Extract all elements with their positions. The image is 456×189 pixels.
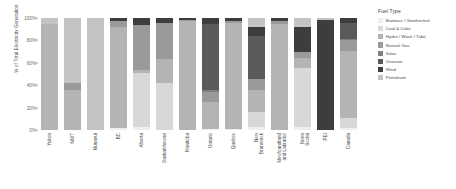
bar-segment[interactable] — [294, 68, 311, 126]
legend-item[interactable]: Wind — [378, 67, 456, 73]
stacked-bar[interactable] — [41, 18, 58, 130]
stacked-bar[interactable] — [87, 18, 104, 130]
bar-segment[interactable] — [248, 112, 265, 127]
x-axis-label: Quebec — [231, 133, 236, 149]
bar-segment[interactable] — [64, 90, 81, 130]
legend-item[interactable]: Hydro / Wave / Tidal — [378, 34, 456, 40]
y-tick-label: 60% — [27, 60, 36, 65]
bar-segment[interactable] — [340, 40, 357, 50]
bar-segment[interactable] — [41, 24, 58, 130]
legend-item[interactable]: Natural Gas — [378, 42, 456, 48]
x-axis-label: Canada — [346, 133, 351, 149]
stacked-bar[interactable] — [271, 18, 288, 130]
bar-column[interactable] — [179, 18, 196, 130]
bar-segment[interactable] — [340, 51, 357, 118]
bar-column[interactable] — [248, 18, 265, 130]
stacked-bar[interactable] — [64, 18, 81, 130]
bar-segment[interactable] — [64, 18, 81, 83]
stacked-bar[interactable] — [248, 18, 265, 130]
bar-segment[interactable] — [133, 73, 150, 127]
bar-segment[interactable] — [340, 23, 357, 40]
legend-item[interactable]: Biomass / Geothermal — [378, 18, 456, 24]
legend-swatch — [378, 59, 383, 64]
bar-column[interactable] — [64, 18, 81, 130]
legend-items: Biomass / GeothermalCoal & CokeHydro / W… — [378, 18, 456, 81]
bar-segment[interactable] — [317, 20, 334, 130]
bar-segment[interactable] — [248, 18, 265, 27]
legend-item[interactable]: Uranium — [378, 58, 456, 64]
bar-segment[interactable] — [248, 36, 265, 79]
stacked-bar[interactable] — [179, 18, 196, 130]
bar-segment[interactable] — [64, 83, 81, 90]
legend-label: Solar — [386, 51, 396, 56]
stacked-bar[interactable] — [317, 18, 334, 130]
stacked-bar[interactable] — [156, 18, 173, 130]
x-axis-label: Newfoundland and Labrador — [277, 133, 287, 162]
y-tick-label: 0% — [29, 128, 36, 133]
bar-segment[interactable] — [248, 79, 265, 90]
bar-segment[interactable] — [248, 127, 265, 130]
bar-segment[interactable] — [202, 102, 219, 129]
bar-segment[interactable] — [294, 27, 311, 52]
stacked-bar[interactable] — [110, 18, 127, 130]
bar-column[interactable] — [340, 18, 357, 130]
bar-segment[interactable] — [294, 58, 311, 68]
bar-segment[interactable] — [179, 21, 196, 130]
bar-segment[interactable] — [271, 24, 288, 130]
bar-segment[interactable] — [248, 27, 265, 36]
stacked-bar[interactable] — [294, 18, 311, 130]
stacked-bar[interactable] — [340, 18, 357, 130]
bar-segment[interactable] — [156, 83, 173, 130]
bar-column[interactable] — [225, 18, 242, 130]
bar-segment[interactable] — [133, 25, 150, 70]
bar-segment[interactable] — [340, 128, 357, 130]
bar-segment[interactable] — [340, 118, 357, 128]
legend-item[interactable]: Petroleum — [378, 75, 456, 81]
bar-segment[interactable] — [294, 127, 311, 130]
bar-segment[interactable] — [156, 23, 173, 60]
bar-column[interactable] — [87, 18, 104, 130]
bar-column[interactable] — [41, 18, 58, 130]
legend-label: Wind — [386, 67, 396, 72]
legend-label: Biomass / Geothermal — [386, 18, 430, 23]
legend-swatch — [378, 34, 383, 39]
x-axis-label: BC — [116, 133, 121, 139]
y-tick-label: 80% — [27, 38, 36, 43]
bar-segment[interactable] — [202, 24, 219, 90]
stacked-bar[interactable] — [225, 18, 242, 130]
x-axis-label: Nunavut — [93, 133, 98, 150]
legend-label: Coal & Coke — [386, 26, 411, 31]
bar-column[interactable] — [156, 18, 173, 130]
bar-segment[interactable] — [133, 18, 150, 25]
y-axis-ticks: 0%20%40%60%80%100% — [0, 18, 36, 130]
legend: Fuel Type Biomass / GeothermalCoal & Cok… — [378, 8, 456, 83]
bar-segment[interactable] — [248, 90, 265, 112]
legend-swatch — [378, 18, 383, 23]
bar-column[interactable] — [133, 18, 150, 130]
bar-segment[interactable] — [110, 27, 127, 128]
y-tick-label: 100% — [24, 16, 36, 21]
bar-column[interactable] — [202, 18, 219, 130]
bar-segment[interactable] — [225, 129, 242, 130]
legend-label: Uranium — [386, 59, 403, 64]
legend-item[interactable]: Coal & Coke — [378, 26, 456, 32]
x-axis-label: PEI — [323, 133, 328, 140]
bar-column[interactable] — [294, 18, 311, 130]
stacked-bar[interactable] — [133, 18, 150, 130]
bar-segment[interactable] — [294, 52, 311, 59]
bar-segment[interactable] — [202, 129, 219, 130]
bar-column[interactable] — [271, 18, 288, 130]
bar-segment[interactable] — [202, 92, 219, 102]
bar-segment[interactable] — [110, 128, 127, 130]
bar-segment[interactable] — [225, 23, 242, 129]
bar-segment[interactable] — [156, 59, 173, 83]
bar-column[interactable] — [317, 18, 334, 130]
bar-segment[interactable] — [87, 18, 104, 130]
legend-item[interactable]: Solar — [378, 50, 456, 56]
bar-segment[interactable] — [133, 127, 150, 130]
x-axis-label: Alberta — [139, 133, 144, 148]
stacked-bar[interactable] — [202, 18, 219, 130]
legend-swatch — [378, 42, 383, 47]
bar-segment[interactable] — [294, 18, 311, 27]
bar-column[interactable] — [110, 18, 127, 130]
